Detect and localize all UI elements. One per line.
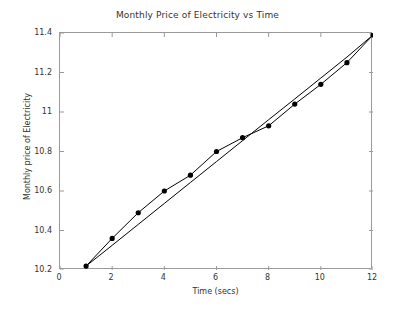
data-point-marker bbox=[162, 188, 167, 193]
x-tick-label: 2 bbox=[109, 273, 114, 282]
y-tick-label: 11 bbox=[42, 107, 52, 116]
y-tick-label: 10.8 bbox=[34, 146, 52, 155]
x-axis-label: Time (secs) bbox=[59, 287, 372, 296]
data-point-marker bbox=[110, 236, 115, 241]
x-tick-label: 8 bbox=[265, 273, 270, 282]
data-point-marker bbox=[266, 123, 271, 128]
x-axis-tick-labels: 024681012 bbox=[59, 273, 372, 287]
data-point-marker bbox=[318, 82, 323, 87]
plot-area bbox=[59, 32, 372, 269]
y-tick-label: 11.4 bbox=[34, 28, 52, 37]
x-tick-label: 12 bbox=[367, 273, 377, 282]
chart-figure: Monthly Price of Electricity vs Time 10.… bbox=[0, 0, 395, 310]
x-tick-label: 0 bbox=[56, 273, 61, 282]
data-point-marker bbox=[344, 60, 349, 65]
series-layer bbox=[83, 33, 373, 269]
data-point-marker bbox=[214, 149, 219, 154]
x-tick-label: 10 bbox=[315, 273, 325, 282]
y-tick-label: 11.2 bbox=[34, 67, 52, 76]
y-tick-label: 10.2 bbox=[34, 265, 52, 274]
y-tick-label: 10.4 bbox=[34, 225, 52, 234]
y-tick-label: 10.6 bbox=[34, 186, 52, 195]
data-point-marker bbox=[188, 173, 193, 178]
x-tick-label: 6 bbox=[213, 273, 218, 282]
y-axis-label: Monthly price of Electricity bbox=[23, 57, 32, 237]
data-point-marker bbox=[136, 210, 141, 215]
plot-svg bbox=[60, 33, 373, 270]
series-line bbox=[86, 35, 373, 266]
x-tick-label: 4 bbox=[161, 273, 166, 282]
chart-title: Monthly Price of Electricity vs Time bbox=[0, 10, 395, 20]
data-point-marker bbox=[292, 102, 297, 107]
